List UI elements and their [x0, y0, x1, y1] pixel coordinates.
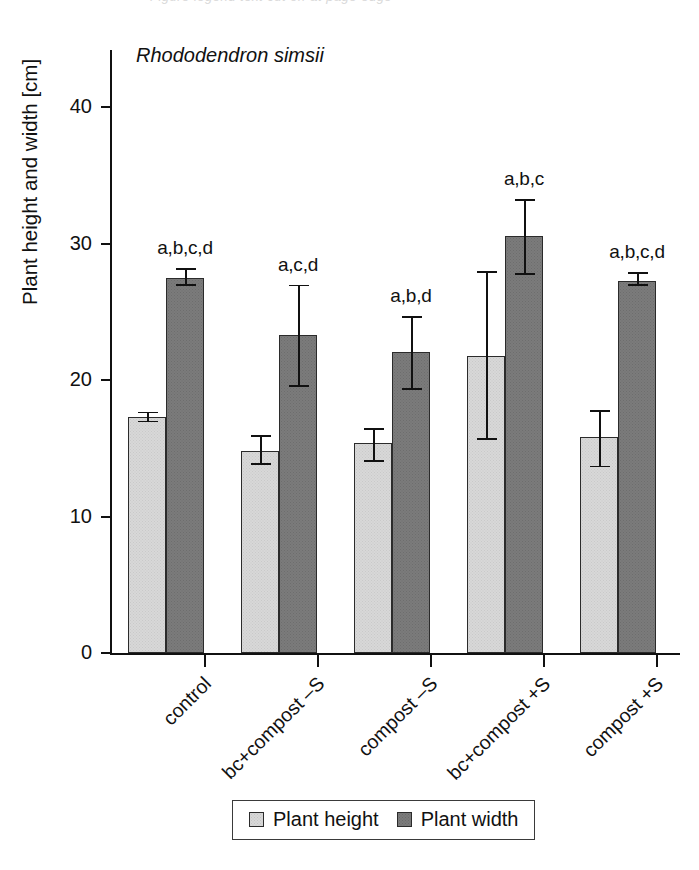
- bar-group: [580, 50, 656, 653]
- error-bar: [637, 272, 638, 286]
- error-bar: [486, 271, 487, 440]
- legend-entry[interactable]: Plant width: [397, 808, 519, 831]
- error-bar: [411, 316, 412, 390]
- legend-swatch-icon: [249, 812, 264, 827]
- error-bar: [147, 412, 148, 423]
- error-bar-cap-bottom: [138, 421, 158, 423]
- x-tick-0: [204, 655, 206, 667]
- error-bar-cap-bottom: [477, 438, 497, 440]
- y-axis-title: Plant height and width [cm]: [18, 0, 42, 305]
- error-bar: [298, 285, 299, 387]
- error-bar-cap-top: [628, 272, 648, 274]
- bar-plant-height[interactable]: [128, 417, 166, 653]
- bar-chart-figure: Rhododendron simsii Plant height and wid…: [0, 0, 699, 870]
- y-tick-20: [101, 379, 112, 381]
- bar-plant-height[interactable]: [354, 443, 392, 653]
- error-bar-cap-bottom: [515, 273, 535, 275]
- error-bar-cap-bottom: [251, 463, 271, 465]
- x-tick-1: [317, 655, 319, 667]
- y-tick-10: [101, 516, 112, 518]
- error-bar-cap-top: [138, 412, 158, 414]
- error-bar-stem: [411, 316, 413, 390]
- error-bar-stem: [260, 435, 262, 465]
- error-bar-cap-bottom: [628, 284, 648, 286]
- error-bar-cap-bottom: [402, 388, 422, 390]
- error-bar-cap-bottom: [590, 466, 610, 468]
- error-bar-cap-top: [515, 199, 535, 201]
- error-bar-cap-top: [251, 435, 271, 437]
- y-tick-0: [101, 652, 112, 654]
- error-bar-cap-bottom: [289, 385, 309, 387]
- legend-entry[interactable]: Plant height: [249, 808, 379, 831]
- y-tick-label-20: 20: [32, 369, 92, 389]
- x-category-label: control: [158, 672, 216, 730]
- y-tick-label-0: 0: [32, 642, 92, 662]
- x-category-label: bc+compost +S: [443, 672, 555, 784]
- error-bar: [260, 435, 261, 465]
- legend-label: Plant width: [421, 808, 519, 831]
- error-bar-stem: [298, 285, 300, 387]
- error-bar-stem: [486, 271, 488, 440]
- bar-plant-width[interactable]: [166, 278, 204, 653]
- y-tick-30: [101, 243, 112, 245]
- y-tick-40: [101, 106, 112, 108]
- bar-plant-width[interactable]: [618, 281, 656, 653]
- error-bar-stem: [599, 410, 601, 467]
- bar-group: [128, 50, 204, 653]
- error-bar-cap-top: [176, 268, 196, 270]
- bar-group: [467, 50, 543, 653]
- x-axis-line: [110, 653, 680, 655]
- error-bar-stem: [373, 428, 375, 462]
- error-bar-cap-bottom: [364, 460, 384, 462]
- y-tick-label-40: 40: [32, 96, 92, 116]
- error-bar-cap-bottom: [176, 284, 196, 286]
- chart-legend: Plant heightPlant width: [232, 800, 535, 840]
- error-bar-cap-top: [402, 316, 422, 318]
- x-category-label: bc+compost –S: [218, 672, 330, 784]
- x-tick-4: [656, 655, 658, 667]
- error-bar-cap-top: [289, 285, 309, 287]
- legend-swatch-icon: [397, 812, 412, 827]
- x-category-label: compost –S: [353, 672, 442, 761]
- error-bar-stem: [524, 199, 526, 275]
- y-tick-label-30: 30: [32, 233, 92, 253]
- error-bar: [524, 199, 525, 275]
- error-bar: [599, 410, 600, 467]
- bar-group: [354, 50, 430, 653]
- bar-plant-width[interactable]: [392, 352, 430, 654]
- x-category-label: compost +S: [578, 672, 667, 761]
- error-bar: [373, 428, 374, 462]
- x-tick-2: [430, 655, 432, 667]
- error-bar-cap-top: [477, 271, 497, 273]
- bar-plant-height[interactable]: [241, 451, 279, 653]
- bar-plant-height[interactable]: [580, 437, 618, 653]
- bar-group: [241, 50, 317, 653]
- bar-plant-width[interactable]: [505, 236, 543, 653]
- plot-area: Rhododendron simsii Plant height and wid…: [110, 50, 680, 655]
- legend-label: Plant height: [273, 808, 379, 831]
- error-bar-cap-top: [590, 410, 610, 412]
- x-tick-3: [543, 655, 545, 667]
- y-axis-line: [110, 50, 112, 655]
- error-bar: [185, 268, 186, 286]
- y-tick-label-10: 10: [32, 506, 92, 526]
- error-bar-cap-top: [364, 428, 384, 430]
